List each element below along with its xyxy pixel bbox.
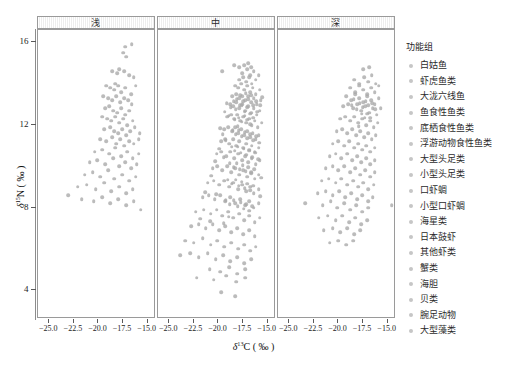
data-point (117, 121, 121, 125)
data-point (247, 214, 251, 218)
data-point (127, 179, 131, 183)
legend-item-4[interactable]: 鱼食性鱼类 (404, 105, 492, 121)
data-point (250, 82, 254, 86)
data-point (231, 138, 235, 142)
data-point (242, 261, 246, 265)
data-point (108, 202, 112, 206)
data-point (366, 80, 370, 84)
data-point (101, 195, 105, 199)
data-point (129, 167, 133, 171)
legend-marker-icon (409, 126, 413, 130)
data-point (252, 139, 256, 143)
data-point (227, 125, 231, 129)
data-point (351, 179, 355, 183)
legend-item-label: 腕足动物 (420, 311, 456, 320)
legend-marker-icon (409, 64, 413, 68)
x-tick-label: −22.5 (304, 324, 323, 333)
data-point (231, 216, 235, 220)
data-point (235, 161, 239, 165)
data-point (114, 94, 118, 98)
data-point (218, 228, 222, 232)
legend-item-7[interactable]: 大型头足类 (404, 152, 492, 168)
x-tick-mark (73, 319, 74, 323)
data-point (237, 65, 241, 69)
data-point (238, 104, 242, 108)
data-point (372, 125, 376, 129)
data-point (334, 218, 338, 222)
data-point (374, 133, 378, 137)
data-point (337, 140, 341, 144)
legend-item-1[interactable]: 白姑鱼 (404, 58, 492, 74)
legend-marker-icon (409, 329, 413, 333)
legend-item-5[interactable]: 底栖食性鱼类 (404, 120, 492, 136)
legend-item-11[interactable]: 海星类 (404, 214, 492, 230)
data-point (103, 181, 107, 185)
data-point (334, 152, 338, 156)
data-point (131, 156, 135, 160)
data-point (209, 212, 213, 216)
legend-item-2[interactable]: 虾虎鱼类 (404, 74, 492, 90)
legend-item-15[interactable]: 海胆 (404, 276, 492, 292)
data-point (221, 132, 225, 136)
data-point (365, 218, 369, 222)
data-point (359, 222, 363, 226)
x-tick-mark (217, 319, 218, 323)
x-tick-mark (288, 319, 289, 323)
data-point (371, 101, 375, 105)
panel-header-label: 深 (278, 18, 394, 27)
data-point (115, 72, 119, 76)
data-point (132, 200, 136, 204)
data-point (224, 139, 228, 143)
data-point (232, 199, 236, 203)
data-point (329, 200, 333, 204)
data-point (331, 142, 335, 146)
legend-item-10[interactable]: 小型口虾蜩 (404, 198, 492, 214)
data-point (339, 117, 343, 121)
data-point (114, 142, 118, 146)
x-tick-label: −22.5 (64, 324, 83, 333)
legend-item-18[interactable]: 大型藻类 (404, 323, 492, 339)
panel-header-label: 中 (158, 18, 274, 27)
data-point (366, 112, 370, 116)
panel-header-label: 浅 (38, 18, 154, 27)
data-point (133, 125, 137, 129)
data-point (252, 184, 256, 188)
data-point (236, 124, 240, 128)
data-point (246, 61, 250, 65)
data-point (244, 91, 248, 95)
legend-item-13[interactable]: 其他虾类 (404, 245, 492, 261)
data-point (197, 255, 201, 259)
legend-item-label: 海胆 (420, 280, 438, 289)
data-point (373, 146, 377, 150)
panel-header-2: 中 (157, 16, 275, 29)
data-point (237, 184, 241, 188)
x-tick-mark (267, 319, 268, 323)
legend-item-3[interactable]: 大泷六线鱼 (404, 89, 492, 105)
data-point (80, 197, 84, 201)
data-point (352, 78, 356, 82)
data-point (228, 259, 232, 263)
data-point (257, 141, 261, 145)
data-point (356, 142, 360, 146)
data-point (228, 161, 232, 165)
data-point (233, 294, 237, 298)
data-point (121, 117, 125, 121)
data-point (132, 76, 136, 80)
data-point (258, 194, 262, 198)
data-point (366, 206, 370, 210)
legend-item-14[interactable]: 蟹类 (404, 261, 492, 277)
legend-item-9[interactable]: 口虾蜩 (404, 183, 492, 199)
legend-item-6[interactable]: 浮游动物食性鱼类 (404, 136, 492, 152)
x-tick-mark (97, 319, 98, 323)
data-point (189, 224, 193, 228)
data-point (245, 175, 249, 179)
legend-item-12[interactable]: 日本鼓虾 (404, 230, 492, 246)
data-point (101, 148, 105, 152)
data-point (83, 173, 87, 177)
legend-item-17[interactable]: 腕足动物 (404, 308, 492, 324)
legend-item-16[interactable]: 贝类 (404, 292, 492, 308)
data-point (353, 216, 357, 220)
x-tick-label: −15.0 (257, 324, 276, 333)
legend-item-8[interactable]: 小型头足类 (404, 167, 492, 183)
data-point (224, 199, 228, 203)
